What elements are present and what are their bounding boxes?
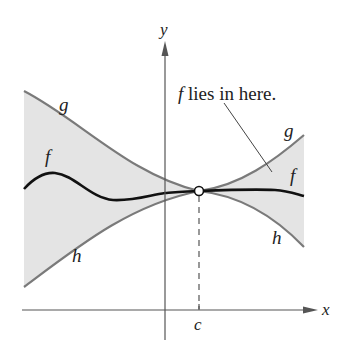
- annotation-pointer: [224, 103, 272, 172]
- annotation-text: f lies in here.: [178, 83, 276, 104]
- h-label-right: h: [272, 227, 282, 248]
- c-label: c: [194, 315, 202, 334]
- diagram-canvas: y x c g f h g f h f lies in here.: [0, 0, 344, 355]
- h-label-left: h: [72, 245, 82, 266]
- y-axis-arrow-icon: [162, 41, 169, 56]
- y-axis-label: y: [158, 20, 168, 39]
- limit-point-marker: [195, 187, 204, 196]
- squeeze-theorem-diagram: y x c g f h g f h f lies in here.: [0, 0, 344, 355]
- g-label-right: g: [284, 120, 294, 141]
- x-axis-arrow-icon: [303, 307, 318, 314]
- annotation-rest: lies in here.: [183, 83, 276, 104]
- g-label-left: g: [59, 94, 69, 115]
- x-axis-label: x: [321, 300, 330, 319]
